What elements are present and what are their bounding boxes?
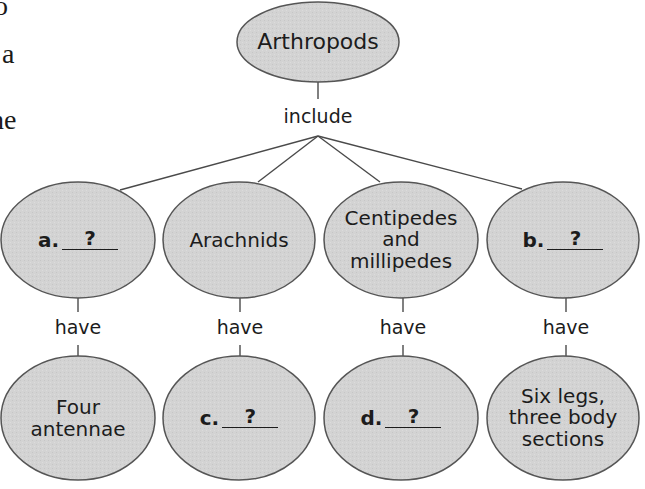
blank-answer-c[interactable]: c. ? [200,407,278,430]
trait-label-line: antennae [31,418,126,440]
have-text: have [217,317,264,338]
group-label-text: Arachnids [189,229,288,251]
trait-label-line: Four [56,396,100,418]
branch-line-centipedes [318,136,380,182]
trait-node-centipedes: d. ? [324,356,478,480]
have-connector-label: have [28,313,128,343]
have-connector-label: have [353,313,453,343]
blank-question-mark: ? [62,227,118,250]
blank-letter: d. [361,407,383,429]
group-node-arachnids: Arachnids [163,182,315,298]
branch-line-arachnids [258,136,318,182]
trait-node-arachnids: c. ? [163,356,315,480]
trait-label-line: sections [522,429,604,451]
blank-answer-d[interactable]: d. ? [361,407,442,430]
trait-node-b: Six legs, three body sections [487,356,639,480]
group-label-line: and [382,229,420,251]
group-label-line: Centipedes [345,208,458,230]
trait-label-line: three body [509,407,618,429]
group-label-line: millipedes [350,251,452,273]
root-node-label: Arthropods [237,2,399,82]
blank-question-mark: ? [547,227,603,250]
group-node-a: a. ? [1,182,155,298]
blank-letter: c. [200,407,219,429]
blank-letter: b. [523,229,545,251]
trait-label-line: Six legs, [521,386,605,408]
blank-answer-b[interactable]: b. ? [523,229,604,252]
blank-question-mark: ? [222,405,278,428]
have-connector-label: have [516,313,616,343]
group-node-centipedes: Centipedes and millipedes [324,182,478,298]
have-connector-label: have [190,313,290,343]
trait-node-a: Four antennae [1,356,155,480]
blank-question-mark: ? [385,405,441,428]
include-connector-label: include [268,102,368,132]
have-text: have [543,317,590,338]
include-text: include [284,106,353,127]
blank-letter: a. [38,229,59,251]
root-label-text: Arthropods [257,30,379,55]
have-text: have [380,317,427,338]
have-text: have [55,317,102,338]
group-node-b: b. ? [487,182,639,298]
blank-answer-a[interactable]: a. ? [38,229,118,252]
